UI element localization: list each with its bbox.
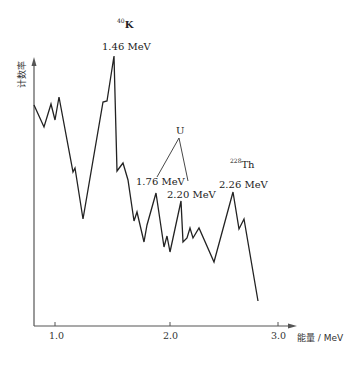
u-1.76-label: 1.76 MeV <box>136 176 186 187</box>
y-axis-arrow <box>32 57 37 66</box>
y-axis-label: 计数率 <box>16 61 27 88</box>
u-pointer-2 <box>179 138 188 181</box>
x-axis-arrow <box>288 324 297 329</box>
th228-label: 228Th <box>230 157 255 170</box>
th228-energy-label: 2.26 MeV <box>219 179 269 190</box>
x-tick-label-1: 1.0 <box>49 330 64 341</box>
u-label: U <box>176 125 184 136</box>
u-2.20-label: 2.20 MeV <box>167 189 217 200</box>
x-tick-label-2: 2.0 <box>163 330 178 341</box>
spectrum-chart: 1.0 2.0 3.0 能量 / MeV 计数率 40K 1.46 MeV U … <box>0 0 362 366</box>
k40-energy-label: 1.46 MeV <box>102 41 152 52</box>
k40-label: 40K <box>117 17 134 30</box>
x-axis-label: 能量 / MeV <box>297 332 344 343</box>
u-pointer-1 <box>157 138 179 177</box>
x-tick-label-3: 3.0 <box>271 330 286 341</box>
